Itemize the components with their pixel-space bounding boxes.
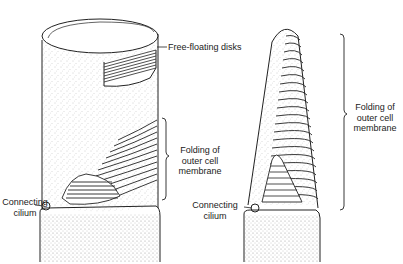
photoreceptor-diagram [0,0,403,264]
cone-outer-segment [244,29,347,262]
label-cone-folding-line3: membrane [348,123,402,134]
label-free-floating-disks: Free-floating disks [168,42,242,53]
label-cone-folding: Folding of outer cell membrane [348,102,402,134]
label-cone-folding-line1: Folding of [348,102,402,113]
rod-outer-segment [35,19,169,262]
label-rod-connecting-cilium: Connecting cilium [2,197,48,218]
label-cone-cilium-line1: Connecting [186,200,244,211]
label-rod-cilium-line2: cilium [2,208,48,219]
label-rod-folding-line2: outer cell [170,156,230,167]
label-rod-folding-line3: membrane [170,166,230,177]
cone-cilium-circle [251,204,259,212]
label-cone-cilium-line2: cilium [186,211,244,222]
label-rod-cilium-line1: Connecting [2,197,48,208]
label-rod-folding-line1: Folding of [170,145,230,156]
label-cone-folding-line2: outer cell [348,113,402,124]
label-rod-folding: Folding of outer cell membrane [170,145,230,177]
label-cone-connecting-cilium: Connecting cilium [186,200,244,221]
